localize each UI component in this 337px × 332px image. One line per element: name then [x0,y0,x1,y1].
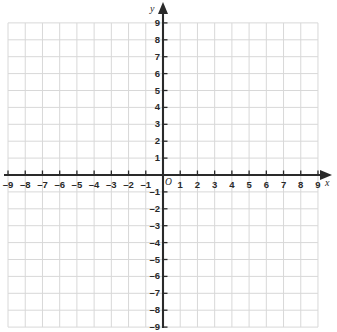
y-tick-label: –2 [149,204,160,214]
coordinate-grid-svg [0,0,337,332]
y-tick-label: 8 [155,35,160,45]
y-tick-label: –9 [149,322,160,332]
y-tick-label: 1 [155,153,160,163]
y-tick-label: 9 [155,18,160,28]
x-tick-label: –6 [54,180,65,190]
x-tick-label: 3 [212,180,217,190]
y-tick-label: –6 [149,272,160,282]
x-tick-label: 6 [264,180,269,190]
x-axis-label: x [325,178,329,188]
x-tick-label: –3 [106,180,117,190]
x-tick-label: 5 [246,180,251,190]
x-tick-label: –9 [3,180,14,190]
y-tick-label: 5 [155,86,160,96]
y-tick-label: –7 [149,289,160,299]
x-tick-label: –7 [37,180,48,190]
y-tick-label: –3 [149,221,160,231]
x-tick-label: –8 [20,180,31,190]
y-tick-label: 3 [155,120,160,130]
x-tick-label: 7 [281,180,286,190]
y-tick-label: 6 [155,69,160,79]
x-tick-label: 8 [298,180,303,190]
x-tick-label: 9 [315,180,320,190]
x-tick-label: –2 [123,180,134,190]
y-tick-label: 4 [155,103,160,113]
origin-label: O [165,178,172,188]
y-tick-label: –5 [149,255,160,265]
y-tick-label: 2 [155,136,160,146]
x-tick-label: 2 [195,180,200,190]
y-axis-label: y [150,4,154,14]
y-tick-label: –8 [149,305,160,315]
coordinate-plane-figure: –9–8–7–6–5–4–3–2–1123456789 –9–8–7–6–5–4… [0,0,337,332]
y-tick-label: 7 [155,52,160,62]
x-tick-label: 4 [229,180,234,190]
x-tick-label: 1 [178,180,183,190]
x-tick-label: –4 [89,180,100,190]
axis-lines [4,2,332,328]
x-tick-label: –5 [72,180,83,190]
y-tick-label: –1 [149,187,160,197]
y-tick-label: –4 [149,238,160,248]
y-axis-arrowhead [158,2,168,14]
